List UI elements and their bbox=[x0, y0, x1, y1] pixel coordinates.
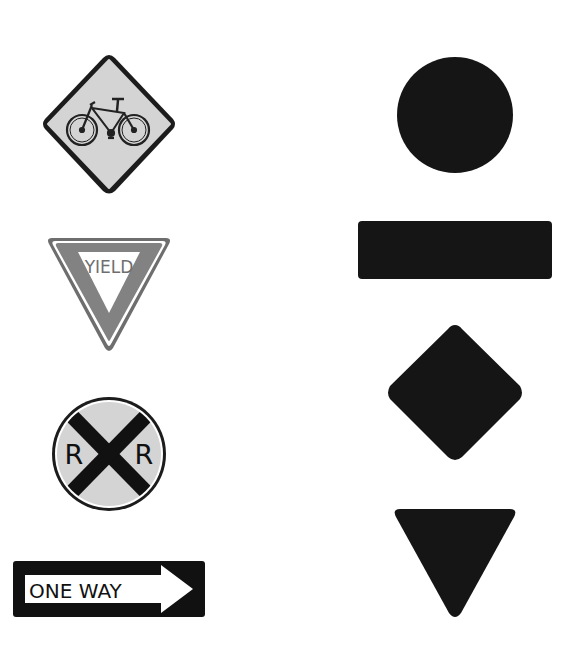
railroad-crossing-sign: R R bbox=[50, 394, 168, 514]
rr-right-letter: R bbox=[135, 439, 154, 470]
rectangle-silhouette bbox=[358, 221, 552, 279]
yield-sign: YIELD bbox=[46, 236, 172, 354]
yield-text: YIELD bbox=[84, 257, 134, 277]
triangle-silhouette bbox=[392, 508, 518, 620]
circle-silhouette bbox=[396, 56, 514, 174]
diamond-silhouette bbox=[386, 323, 524, 463]
rr-left-letter: R bbox=[65, 439, 84, 470]
one-way-sign: ONE WAY bbox=[13, 561, 205, 617]
one-way-text: ONE WAY bbox=[29, 579, 123, 603]
bicycle-crossing-sign bbox=[40, 53, 178, 196]
